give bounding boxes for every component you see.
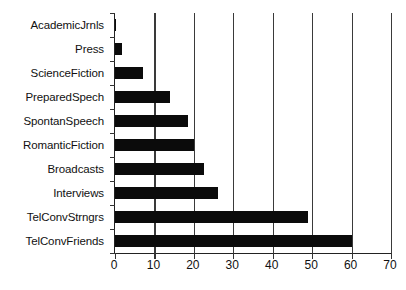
bars-layer (115, 13, 391, 253)
y-axis-label-group: AcademicJrnlsPressScienceFictionPrepared… (0, 13, 110, 253)
bar (115, 67, 143, 79)
y-tick-label: TelConvFriends (26, 235, 111, 248)
y-tick-label: Interviews (53, 187, 110, 200)
bar-row (115, 181, 218, 205)
bar (115, 211, 308, 223)
bar (115, 139, 194, 151)
bar-row (115, 157, 204, 181)
gridline (391, 13, 392, 253)
bar-row (115, 205, 308, 229)
y-tick-label: AcademicJrnls (31, 19, 110, 32)
x-tick-label: 60 (344, 258, 357, 272)
bar-row (115, 37, 122, 61)
x-tick-label: 20 (186, 258, 199, 272)
bar (115, 163, 204, 175)
bar-row (115, 109, 188, 133)
bar (115, 43, 122, 55)
x-tick-label: 70 (383, 258, 396, 272)
bar (115, 19, 116, 31)
bar (115, 187, 218, 199)
y-tick-label: PreparedSpech (25, 91, 110, 104)
y-tick-label: SpontanSpeech (23, 115, 110, 128)
x-tick-label: 30 (226, 258, 239, 272)
bar-row (115, 133, 194, 157)
x-tick-label: 40 (265, 258, 278, 272)
bar (115, 235, 352, 247)
y-tick-label: RomanticFiction (23, 139, 110, 152)
plot-area (114, 13, 391, 254)
bar (115, 115, 188, 127)
bar-row (115, 13, 116, 37)
x-axis-label-group: 010203040506070 (114, 258, 390, 278)
y-tick-label: TelConvStrngrs (27, 211, 110, 224)
bar-row (115, 85, 170, 109)
x-tick-label: 0 (111, 258, 118, 272)
bar-row (115, 229, 352, 253)
y-tick-label: Broadcasts (47, 163, 110, 176)
x-tick-label: 10 (147, 258, 160, 272)
x-tick-label: 50 (304, 258, 317, 272)
bar-chart-figure: AcademicJrnlsPressScienceFictionPrepared… (0, 0, 406, 290)
bar (115, 91, 170, 103)
y-tick-label: Press (75, 43, 110, 56)
bar-row (115, 61, 143, 85)
y-tick-label: ScienceFiction (31, 67, 110, 80)
